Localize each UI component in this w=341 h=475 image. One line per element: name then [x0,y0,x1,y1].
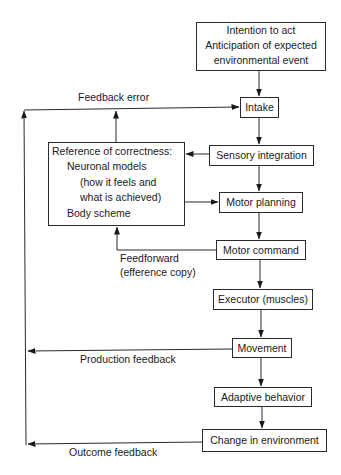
node-executor: Executor (muscles) [214,290,313,310]
reference-line-2: Neuronal models [67,160,146,172]
intention-line-3: environmental event [214,54,309,66]
intention-line-1: Intention to act [227,24,296,36]
arrow-left-return-line [24,111,26,445]
intake-label: Intake [245,101,274,113]
change-in-environment-label: Change in environment [210,434,319,446]
node-sensory-integration: Sensory integration [210,146,314,166]
node-motor-command: Motor command [217,241,306,260]
arrow-production-feedback [28,349,232,351]
reference-line-1: Reference of correctness: [52,145,172,157]
label-production-feedback: Production feedback [80,353,176,365]
arrow-outcome-feedback [28,442,202,444]
adaptive-behavior-label: Adaptive behavior [221,391,306,403]
reference-line-4: what is achieved) [79,191,161,203]
executor-label: Executor (muscles) [218,293,308,305]
label-efference-copy: (efference copy) [120,266,196,278]
node-adaptive-behavior: Adaptive behavior [215,388,312,407]
arrow-feedforward-to-reference [117,227,216,250]
label-outcome-feedback: Outcome feedback [69,446,158,458]
arrow-feedback-error-to-intake [24,107,239,110]
motor-command-label: Motor command [223,244,299,256]
node-change-in-environment: Change in environment [203,430,327,452]
reference-line-3: (how it feels and [80,176,157,188]
node-intake: Intake [241,98,279,118]
node-intention: Intention to act Anticipation of expecte… [197,23,326,71]
reference-line-5: Body scheme [67,207,131,219]
movement-label: Movement [237,342,286,354]
sensory-integration-label: Sensory integration [216,149,307,161]
motor-planning-label: Motor planning [226,196,296,208]
flowchart-canvas: Feedback error Feedforward (efference co… [0,0,341,475]
node-reference: Reference of correctness: Neuronal model… [49,143,185,226]
intention-line-2: Anticipation of expected [205,39,317,51]
node-motor-planning: Motor planning [220,193,303,213]
label-feedback-error: Feedback error [78,91,150,103]
node-movement: Movement [233,339,292,358]
label-feedforward: Feedforward [120,252,179,264]
